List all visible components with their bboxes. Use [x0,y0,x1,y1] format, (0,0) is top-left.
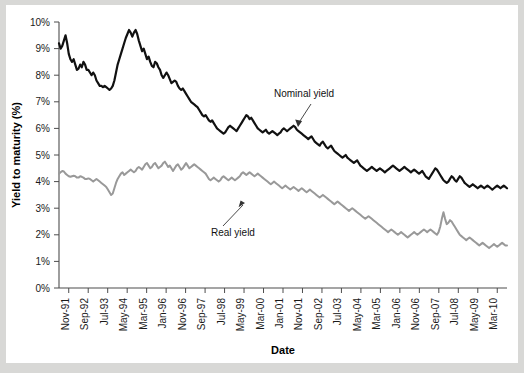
y-axis-tick-label: 10% [30,17,50,28]
x-axis-tick-label: Sep-92 [79,298,90,331]
y-axis-tick-label: 8% [36,70,51,81]
y-axis-ticks: 0%1%2%3%4%5%6%7%8%9%10% [30,17,59,294]
y-axis-tick-label: 6% [36,123,51,134]
x-axis-ticks: Nov-91Sep-92Jul-93May-94Mar-95Jan-96Nov-… [60,288,500,331]
x-axis-tick-label: Jul-08 [449,298,460,326]
y-axis-title: Yield to maturity (%) [10,102,22,208]
chart-figure: 0%1%2%3%4%5%6%7%8%9%10% Nov-91Sep-92Jul-… [6,5,518,363]
x-axis-tick-label: Nov-96 [177,298,188,331]
x-axis-tick-label: May-09 [469,298,480,332]
x-axis-tick-label: Jan-96 [157,298,168,329]
x-axis-tick-label: Jul-03 [332,298,343,326]
y-axis-tick-label: 9% [36,43,51,54]
y-axis-tick-label: 5% [36,150,51,161]
x-axis-tick-label: Nov-91 [60,298,71,331]
x-axis-tick-label: Nov-06 [410,298,421,331]
y-axis-tick-label: 7% [36,96,51,107]
y-axis-tick-label: 0% [36,283,51,294]
annotation-layer: Nominal yield Real yield [211,88,334,238]
x-axis-tick-label: May-94 [118,298,129,332]
x-axis-tick-label: May-99 [235,298,246,332]
x-axis-tick-label: Mar-10 [488,298,499,330]
y-axis-tick-label: 2% [36,229,51,240]
x-axis-tick-label: Jul-98 [216,298,227,326]
x-axis-tick-label: Nov-01 [293,298,304,331]
x-axis-tick-label: May-04 [352,298,363,332]
axes-layer [59,22,507,288]
x-axis-tick-label: Mar-95 [138,298,149,330]
x-axis-tick-label: Jan-06 [391,298,402,329]
annotation-label-real-yield: Real yield [211,227,255,238]
annotation-arrow-real-yield [223,205,243,226]
x-axis-tick-label: Sep-97 [196,298,207,331]
x-axis-tick-label: Jul-93 [99,298,110,326]
y-axis-tick-label: 1% [36,256,51,267]
x-axis-tick-label: Sep-02 [313,298,324,331]
x-axis-tick-label: Mar-05 [371,298,382,330]
x-axis-tick-label: Mar-00 [255,298,266,330]
series-line-nominal-yield [59,30,507,190]
annotation-arrowhead-nominal-yield [295,120,302,127]
x-axis-tick-label: Sep-07 [430,298,441,331]
series-layer [59,30,507,248]
y-axis-tick-label: 4% [36,176,51,187]
x-axis-tick-label: Jan-01 [274,298,285,329]
annotation-label-nominal-yield: Nominal yield [274,88,334,99]
x-axis-title: Date [271,344,295,356]
yield-to-maturity-line-chart: 0%1%2%3%4%5%6%7%8%9%10% Nov-91Sep-92Jul-… [6,5,518,363]
y-axis-tick-label: 3% [36,203,51,214]
